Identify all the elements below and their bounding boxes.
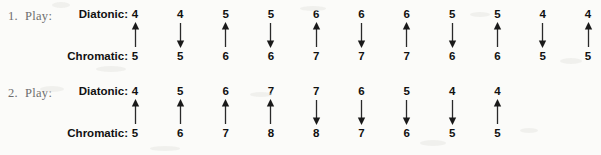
chromatic-note-value: 5 — [124, 126, 146, 140]
arrow-up-icon — [215, 99, 237, 125]
note-column: 56 — [260, 4, 282, 72]
diatonic-note-value: 5 — [215, 7, 237, 21]
diatonic-note-value: 5 — [169, 84, 191, 98]
note-column: 45 — [124, 81, 146, 149]
chromatic-note-value: 5 — [486, 126, 508, 140]
arrow-down-icon — [351, 22, 373, 48]
note-column: 56 — [215, 4, 237, 72]
chromatic-note-value: 6 — [441, 49, 463, 63]
diatonic-note-value: 6 — [215, 84, 237, 98]
chromatic-note-value: 5 — [169, 49, 191, 63]
chromatic-note-value: 5 — [577, 49, 599, 63]
arrow-up-icon — [396, 22, 418, 48]
diatonic-note-value: 4 — [532, 7, 554, 21]
chromatic-note-value: 7 — [396, 49, 418, 63]
harmonica-tab-sheet: 1.Play: Diatonic: Chromatic: 45455656676… — [0, 0, 601, 155]
arrow-up-icon — [169, 99, 191, 125]
note-column: 56 — [486, 4, 508, 72]
note-column: 45 — [169, 4, 191, 72]
note-column: 45 — [577, 4, 599, 72]
arrow-up-icon — [305, 22, 327, 48]
exercise-2-columns: 455667787867564545 — [0, 81, 601, 151]
chromatic-note-value: 7 — [351, 126, 373, 140]
note-column: 67 — [351, 81, 373, 149]
note-column: 78 — [305, 81, 327, 149]
arrow-down-icon — [351, 99, 373, 125]
arrow-up-icon — [486, 22, 508, 48]
exercise-1: 1.Play: Diatonic: Chromatic: 45455656676… — [0, 4, 601, 74]
arrow-up-icon — [124, 99, 146, 125]
diatonic-note-value: 4 — [486, 84, 508, 98]
note-column: 67 — [215, 81, 237, 149]
diatonic-note-value: 5 — [441, 7, 463, 21]
diatonic-note-value: 6 — [351, 7, 373, 21]
arrow-up-icon — [215, 22, 237, 48]
arrow-up-icon — [577, 22, 599, 48]
diatonic-note-value: 7 — [260, 84, 282, 98]
note-column: 45 — [124, 4, 146, 72]
chromatic-note-value: 6 — [215, 49, 237, 63]
arrow-down-icon — [441, 99, 463, 125]
note-column: 67 — [351, 4, 373, 72]
chromatic-note-value: 7 — [305, 49, 327, 63]
arrow-down-icon — [260, 22, 282, 48]
exercise-2: 2.Play: Diatonic: Chromatic: 45566778786… — [0, 81, 601, 151]
arrow-down-icon — [396, 99, 418, 125]
arrow-down-icon — [169, 22, 191, 48]
chromatic-note-value: 5 — [532, 49, 554, 63]
chromatic-note-value: 6 — [396, 126, 418, 140]
diatonic-note-value: 4 — [169, 7, 191, 21]
diatonic-note-value: 4 — [577, 7, 599, 21]
chromatic-note-value: 8 — [260, 126, 282, 140]
chromatic-note-value: 6 — [486, 49, 508, 63]
note-column: 56 — [441, 4, 463, 72]
diatonic-note-value: 5 — [396, 84, 418, 98]
chromatic-note-value: 6 — [169, 126, 191, 140]
arrow-down-icon — [532, 22, 554, 48]
diatonic-note-value: 4 — [124, 84, 146, 98]
chromatic-note-value: 5 — [441, 126, 463, 140]
arrow-down-icon — [441, 22, 463, 48]
note-column: 78 — [260, 81, 282, 149]
note-column: 56 — [396, 81, 418, 149]
diatonic-note-value: 6 — [396, 7, 418, 21]
diatonic-note-value: 6 — [305, 7, 327, 21]
diatonic-note-value: 6 — [351, 84, 373, 98]
arrow-down-icon — [305, 99, 327, 125]
chromatic-note-value: 8 — [305, 126, 327, 140]
chromatic-note-value: 6 — [260, 49, 282, 63]
diatonic-note-value: 5 — [260, 7, 282, 21]
arrow-up-icon — [124, 22, 146, 48]
chromatic-note-value: 5 — [124, 49, 146, 63]
note-column: 45 — [486, 81, 508, 149]
arrow-up-icon — [260, 99, 282, 125]
diatonic-note-value: 4 — [124, 7, 146, 21]
diatonic-note-value: 4 — [441, 84, 463, 98]
chromatic-note-value: 7 — [351, 49, 373, 63]
note-column: 56 — [169, 81, 191, 149]
arrow-up-icon — [486, 99, 508, 125]
chromatic-note-value: 7 — [215, 126, 237, 140]
diatonic-note-value: 7 — [305, 84, 327, 98]
note-column: 67 — [396, 4, 418, 72]
note-column: 45 — [441, 81, 463, 149]
note-column: 67 — [305, 4, 327, 72]
exercise-1-columns: 4545565667676756564545 — [0, 4, 601, 74]
note-column: 45 — [532, 4, 554, 72]
diatonic-note-value: 5 — [486, 7, 508, 21]
